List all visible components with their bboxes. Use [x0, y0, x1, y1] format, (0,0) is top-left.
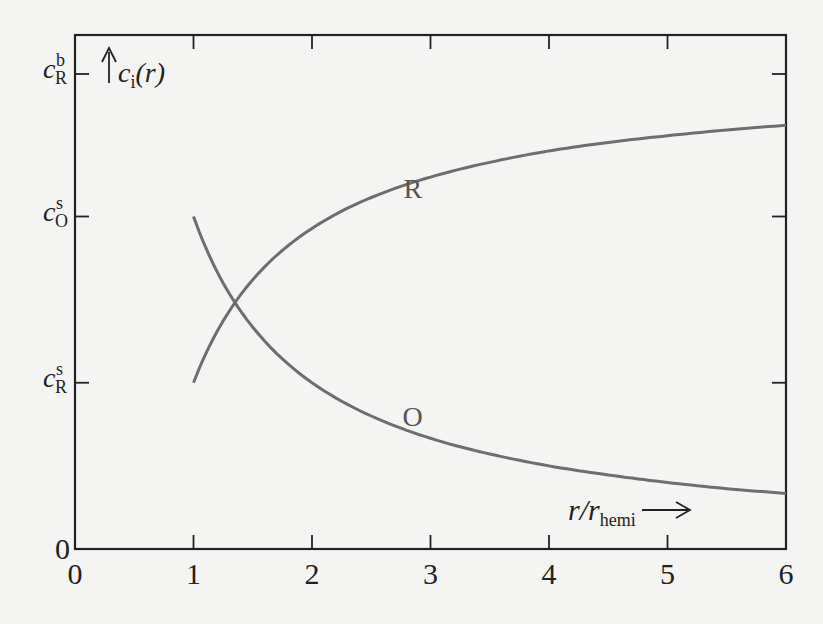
svg-text:r/rhemi: r/rhemi — [568, 493, 636, 530]
curve-R — [194, 125, 787, 383]
chart: 0123456 0csRcsOcbR RO ci(r) r/rhemi — [0, 0, 823, 624]
x-tick-label: 6 — [779, 557, 794, 590]
y-tick-label: 0 — [55, 532, 70, 565]
x-tick-label: 5 — [660, 557, 675, 590]
x-axis-title: r/rhemi — [568, 493, 690, 530]
y-tick-label: csO — [43, 193, 68, 231]
curve-label-R: R — [403, 173, 422, 204]
y-tick-label: csR — [43, 359, 67, 397]
ylabel-main: c — [118, 57, 131, 88]
curve-label-O: O — [403, 401, 423, 432]
x-tick-label: 1 — [186, 557, 201, 590]
y-axis-title: ci(r) — [102, 48, 165, 92]
x-tick-label: 2 — [305, 557, 320, 590]
ylabel-tail: (r) — [135, 57, 165, 88]
curves: RO — [194, 125, 787, 493]
y-axis-ticks: 0csRcsOcbR — [43, 50, 786, 565]
svg-text:ci(r): ci(r) — [118, 57, 165, 92]
xlabel-sub: hemi — [600, 510, 636, 530]
x-tick-label: 4 — [542, 557, 557, 590]
y-tick-label: cbR — [43, 50, 67, 88]
xlabel-main: r/r — [568, 493, 600, 526]
x-tick-label: 3 — [423, 557, 438, 590]
curve-O — [194, 217, 787, 494]
plot-frame — [75, 35, 786, 549]
